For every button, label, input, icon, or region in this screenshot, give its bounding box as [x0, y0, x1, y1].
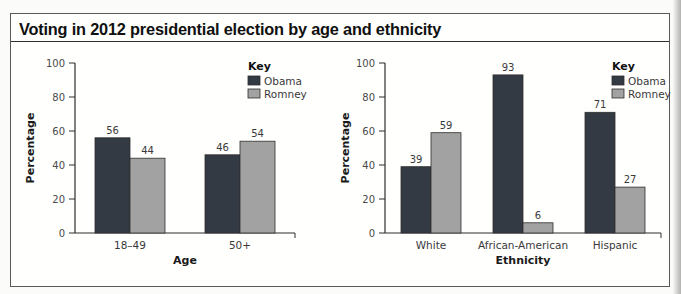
figure-box: Voting in 2012 presidential election by … [10, 13, 670, 287]
cropped-source-label-clip: SOURCE 8 [3, 0, 93, 4]
page-edge-shading [673, 0, 681, 294]
title-rule [11, 41, 669, 42]
figure-title: Voting in 2012 presidential election by … [19, 20, 633, 40]
cropped-source-label: SOURCE 8 [3, 0, 93, 2]
